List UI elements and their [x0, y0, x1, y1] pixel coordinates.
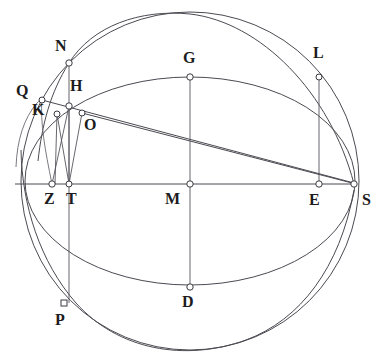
point-marker-H: [66, 103, 72, 109]
point-label-P: P: [55, 312, 65, 328]
point-label-N: N: [55, 38, 67, 54]
point-marker-D: [187, 284, 193, 290]
point-marker-S: [351, 181, 357, 187]
H-Z-line: [52, 106, 69, 184]
point-label-L: L: [313, 45, 324, 61]
K-Z-vertical-line: [55, 114, 57, 184]
point-marker-M: [187, 181, 193, 187]
meridian-arc-upper: [38, 13, 354, 184]
point-label-S: S: [362, 192, 371, 208]
horizon-great-circle-lower: [21, 150, 354, 351]
point-label-D: D: [182, 294, 194, 310]
K-T-line: [57, 114, 69, 184]
point-label-G: G: [183, 50, 195, 66]
point-label-M: M: [165, 191, 180, 207]
point-marker-T: [66, 181, 72, 187]
point-label-O: O: [84, 117, 96, 133]
point-marker-G: [187, 74, 193, 80]
point-marker-E: [316, 181, 322, 187]
point-label-E: E: [309, 192, 320, 208]
point-marker-Z: [49, 181, 55, 187]
point-marker-L: [316, 74, 322, 80]
point-label-H: H: [70, 78, 82, 94]
point-label-K: K: [32, 102, 44, 118]
O-E-chord: [82, 113, 352, 183]
O-T-line: [69, 113, 82, 184]
point-label-T: T: [66, 191, 77, 207]
point-label-Z: Z: [44, 191, 55, 207]
point-label-Q: Q: [16, 83, 28, 99]
H-S-chord: [42, 100, 354, 183]
geometric-diagram: N Q H K O G L Z T M E S D P: [0, 0, 381, 358]
point-marker-P: [61, 300, 67, 306]
point-marker-K: [54, 111, 60, 117]
point-marker-N: [66, 60, 72, 66]
